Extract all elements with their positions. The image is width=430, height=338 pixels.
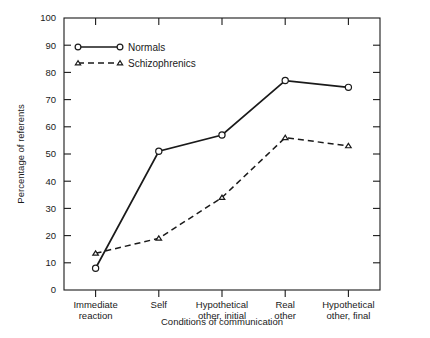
x-axis-title: Conditions of communication (161, 316, 283, 327)
x-axis-category-label: reaction (79, 310, 113, 321)
data-point-marker-triangle (346, 143, 352, 147)
line-chart-figure: 0102030405060708090100 Immediatereaction… (0, 0, 430, 338)
y-axis-tick-marks-left (64, 45, 71, 263)
data-point-marker-circle (117, 44, 123, 50)
y-axis-title: Percentage of referents (15, 104, 26, 204)
x-axis-category-label: Self (151, 299, 168, 310)
legend-label: Schizophrenics (128, 58, 196, 69)
series-line-normals (96, 81, 349, 269)
chart-legend: NormalsSchizophrenics (75, 42, 196, 69)
x-axis-tick-marks-top (96, 18, 349, 25)
data-series-layer (93, 77, 352, 271)
x-axis-category-label: other, final (326, 310, 370, 321)
data-point-marker-triangle (117, 61, 122, 65)
x-axis-category-label: Immediate (73, 299, 117, 310)
y-axis-tick-label: 70 (45, 94, 56, 105)
y-axis-tick-labels: 0102030405060708090100 (40, 12, 56, 295)
data-point-marker-triangle (93, 251, 99, 255)
y-axis-tick-label: 10 (45, 257, 56, 268)
y-axis-tick-label: 0 (51, 284, 56, 295)
plot-area-frame (64, 18, 380, 290)
data-point-marker-triangle (156, 236, 162, 240)
x-axis-category-label: Hypothetical (322, 299, 374, 310)
data-point-marker-circle (75, 44, 81, 50)
x-axis-category-label: Hypothetical (196, 299, 248, 310)
x-axis-category-label: Real (275, 299, 295, 310)
data-point-marker-circle (345, 84, 351, 90)
data-point-marker-circle (93, 265, 99, 271)
y-axis-tick-label: 40 (45, 176, 56, 187)
y-axis-tick-label: 90 (45, 40, 56, 51)
data-point-marker-triangle (75, 61, 80, 65)
y-axis-tick-label: 100 (40, 12, 56, 23)
data-point-marker-circle (282, 77, 288, 83)
y-axis-tick-marks-right (373, 45, 380, 263)
y-axis-tick-label: 20 (45, 230, 56, 241)
y-axis-tick-label: 30 (45, 203, 56, 214)
chart-container: 0102030405060708090100 Immediatereaction… (0, 0, 430, 338)
y-axis-tick-label: 50 (45, 148, 56, 159)
legend-label: Normals (128, 42, 165, 53)
x-axis-tick-marks-bottom (96, 290, 349, 297)
y-axis-tick-label: 80 (45, 67, 56, 78)
data-point-marker-triangle (282, 135, 288, 139)
data-point-marker-circle (219, 132, 225, 138)
data-point-marker-circle (156, 148, 162, 154)
y-axis-tick-label: 60 (45, 121, 56, 132)
